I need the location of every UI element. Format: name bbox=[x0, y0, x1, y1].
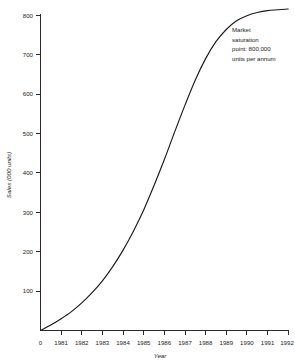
y-axis-tick-labels: 800 700 600 500 400 300 200 100 bbox=[23, 12, 34, 295]
y-tick-label-800: 800 bbox=[23, 12, 34, 19]
y-axis-title: Sales (000 units) bbox=[5, 152, 12, 198]
annotation-line-4: units per annum bbox=[232, 55, 276, 62]
market-saturation-annotation: Market saturation point: 800,000 units p… bbox=[232, 26, 276, 62]
x-tick-label-1985: 1985 bbox=[137, 339, 151, 346]
x-tick-label-1984: 1984 bbox=[116, 339, 130, 346]
annotation-line-1: Market bbox=[232, 26, 251, 33]
y-tick-label-500: 500 bbox=[23, 130, 34, 137]
x-tick-label-1989: 1989 bbox=[220, 339, 234, 346]
y-tick-label-300: 300 bbox=[23, 209, 34, 216]
x-tick-label-1988: 1988 bbox=[199, 339, 213, 346]
x-tick-label-0: 0 bbox=[39, 339, 43, 346]
y-tick-label-200: 200 bbox=[23, 248, 34, 255]
x-axis-tick-labels: 0 1981 1982 1983 1984 1985 1986 1987 198… bbox=[39, 339, 295, 346]
y-tick-label-400: 400 bbox=[23, 169, 34, 176]
y-axis-ticks bbox=[36, 15, 41, 291]
x-tick-label-1987: 1987 bbox=[178, 339, 192, 346]
sales-s-curve-figure: 800 700 600 500 400 300 200 100 0 bbox=[0, 0, 295, 363]
y-tick-label-600: 600 bbox=[23, 90, 34, 97]
annotation-line-2: saturation bbox=[232, 36, 259, 43]
x-tick-label-1981: 1981 bbox=[54, 339, 68, 346]
annotation-line-3: point: 800,000 bbox=[232, 45, 271, 52]
x-tick-label-1986: 1986 bbox=[158, 339, 172, 346]
x-tick-label-1983: 1983 bbox=[96, 339, 110, 346]
x-axis-ticks bbox=[61, 331, 288, 336]
y-tick-label-700: 700 bbox=[23, 51, 34, 58]
chart-canvas: 800 700 600 500 400 300 200 100 0 bbox=[0, 0, 295, 363]
x-tick-label-1990: 1990 bbox=[240, 339, 254, 346]
x-tick-label-1982: 1982 bbox=[75, 339, 89, 346]
x-tick-label-1991: 1991 bbox=[261, 339, 275, 346]
x-tick-label-1992: 1992 bbox=[280, 339, 294, 346]
x-axis-title: Year bbox=[154, 352, 168, 359]
y-tick-label-100: 100 bbox=[23, 287, 34, 294]
